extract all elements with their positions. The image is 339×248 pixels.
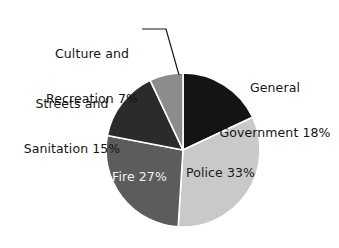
pie-chart: Culture and Recreation 7% Streets and Sa…	[0, 0, 339, 248]
slice-label-line-1: General	[214, 80, 336, 95]
slice-label-police: Police 33%	[186, 166, 255, 180]
slice-label-general-government: General Government 18%	[214, 50, 336, 170]
slice-label-line-1: Culture and	[36, 46, 148, 61]
slice-label-line-1: Streets and	[12, 96, 132, 111]
slice-label-line-2: Government 18%	[214, 125, 336, 140]
slice-label-fire: Fire 27%	[112, 170, 167, 184]
slice-label-streets-and-sanitation: Streets and Sanitation 15%	[12, 66, 132, 186]
slice-label-line-2: Sanitation 15%	[12, 141, 132, 156]
